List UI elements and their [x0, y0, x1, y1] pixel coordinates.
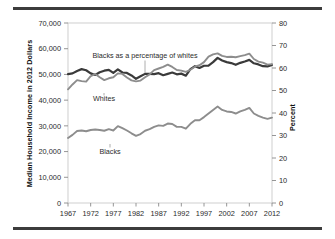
series-annotation-label: Blacks [99, 147, 121, 156]
x-tick-label: 1972 [82, 209, 98, 218]
y-tick-label-left: 40,000 [38, 96, 61, 105]
y-tick-label-right: 80 [279, 19, 287, 28]
plot-frame [68, 23, 272, 203]
series-annotation-label: Blacks as a percentage of whites [92, 51, 197, 60]
y-axis-ticks-right: 01020304050607080 [272, 19, 287, 208]
plot-area-border [68, 23, 272, 203]
figure-container: Median Household Income in 2012 Dollars … [0, 0, 335, 239]
y-tick-label-right: 10 [279, 176, 287, 185]
y-tick-label-right: 30 [279, 131, 287, 140]
top-divider-rule [13, 7, 322, 10]
chart-plot-wrapper: Median Household Income in 2012 Dollars … [0, 13, 335, 223]
y-tick-label-left: 20,000 [38, 147, 61, 156]
series-annotations: Blacks as a percentage of whitesWhitesBl… [92, 51, 197, 156]
y-tick-label-left: 10,000 [38, 173, 61, 182]
y-tick-label-right: 40 [279, 109, 287, 118]
series-line [68, 107, 272, 138]
y-tick-label-right: 20 [279, 154, 287, 163]
x-tick-label: 2002 [218, 209, 234, 218]
x-tick-label: 2007 [241, 209, 257, 218]
x-tick-label: 1987 [150, 209, 166, 218]
y-axis-ticks-left: 010,00020,00030,00040,00050,00060,00070,… [38, 19, 68, 208]
x-tick-label: 1977 [105, 209, 121, 218]
y-tick-label-left: 70,000 [38, 19, 61, 28]
line-chart-svg: 010,00020,00030,00040,00050,00060,00070,… [0, 13, 335, 223]
y-tick-label-left: 50,000 [38, 70, 61, 79]
x-tick-label: 1992 [173, 209, 189, 218]
y-tick-label-right: 50 [279, 86, 287, 95]
x-tick-label: 1997 [196, 209, 212, 218]
x-tick-label: 2012 [264, 209, 280, 218]
y-tick-label-left: 60,000 [38, 44, 61, 53]
y-tick-label-right: 60 [279, 64, 287, 73]
y-tick-label-left: 30,000 [38, 122, 61, 131]
y-tick-label-right: 0 [279, 199, 283, 208]
x-tick-label: 1982 [128, 209, 144, 218]
y-tick-label-left: 0 [57, 199, 61, 208]
y-tick-label-right: 70 [279, 41, 287, 50]
bottom-divider-rule [13, 227, 322, 230]
x-axis-ticks: 1967197219771982198719921997200220072012 [60, 203, 280, 218]
x-tick-label: 1967 [60, 209, 76, 218]
